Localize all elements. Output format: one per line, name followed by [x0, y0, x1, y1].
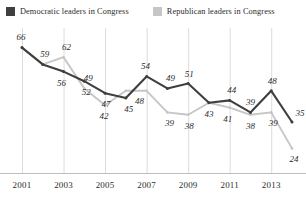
x-tick-2011: 2011	[220, 180, 238, 190]
gridlines	[23, 28, 272, 173]
data-label: 39	[246, 98, 255, 107]
legend-swatch-republican-icon	[153, 7, 162, 16]
data-point	[187, 114, 190, 117]
data-label: 51	[185, 69, 194, 78]
legend-item-republican: Republican leaders in Congress	[153, 7, 275, 16]
x-tick-2001: 2001	[13, 180, 32, 190]
x-tick-2003: 2003	[54, 180, 73, 190]
data-point	[145, 90, 148, 93]
data-label: 44	[227, 86, 236, 95]
data-point	[21, 46, 24, 49]
data-point	[228, 99, 231, 102]
data-point	[291, 121, 294, 124]
data-label: 45	[124, 105, 133, 114]
data-label: 54	[141, 62, 150, 71]
data-point	[207, 101, 210, 104]
x-tick-2009: 2009	[179, 180, 198, 190]
x-axis-labels: 2001200320052007200920112013	[0, 174, 306, 202]
legend-label-democratic: Democratic leaders in Congress	[20, 7, 129, 16]
data-label: 49	[84, 74, 93, 83]
data-label: 66	[17, 32, 26, 41]
data-point	[249, 111, 252, 114]
data-label: 43	[204, 109, 213, 118]
plot-svg	[0, 22, 306, 174]
data-point	[62, 56, 65, 59]
x-tick-2005: 2005	[96, 180, 115, 190]
data-point	[104, 92, 107, 95]
data-point	[145, 75, 148, 78]
data-label: 48	[268, 76, 277, 85]
legend-label-republican: Republican leaders in Congress	[167, 7, 275, 16]
data-point	[270, 111, 273, 114]
data-label: 35	[296, 109, 305, 118]
data-label: 47	[102, 100, 111, 109]
data-point	[124, 97, 127, 100]
data-label: 24	[290, 155, 299, 164]
data-point	[125, 90, 128, 93]
data-label: 59	[40, 50, 49, 59]
line-chart: Democratic leaders in Congress Republica…	[0, 0, 306, 202]
data-label: 56	[57, 78, 66, 87]
data-label: 41	[223, 114, 232, 123]
data-point	[187, 82, 190, 85]
data-point	[291, 147, 294, 150]
data-point	[62, 70, 65, 73]
data-point	[270, 89, 273, 92]
legend-swatch-democratic-icon	[6, 7, 15, 16]
data-point	[166, 87, 169, 90]
data-label: 38	[185, 121, 194, 130]
data-label: 39	[165, 119, 174, 128]
data-label: 49	[166, 74, 175, 83]
data-label: 38	[246, 121, 255, 130]
data-label: 42	[100, 112, 109, 121]
data-label: 52	[82, 88, 91, 97]
x-tick-2013: 2013	[262, 180, 281, 190]
data-label: 39	[269, 119, 278, 128]
data-point	[228, 106, 231, 109]
x-tick-2007: 2007	[137, 180, 156, 190]
data-label: 62	[62, 43, 71, 52]
plot-area: 6659565247455449514344394835624942483938…	[0, 22, 306, 174]
data-point	[166, 111, 169, 114]
data-label: 48	[135, 96, 144, 105]
data-point	[41, 63, 44, 66]
chart-legend: Democratic leaders in Congress Republica…	[0, 0, 306, 22]
legend-item-democratic: Democratic leaders in Congress	[6, 7, 129, 16]
